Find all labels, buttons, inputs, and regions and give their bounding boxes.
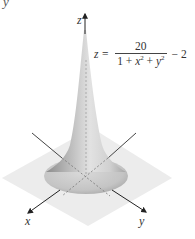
equation-numerator: 20 (133, 40, 149, 53)
den-y-exp: 2 (161, 54, 165, 62)
y-axis-label: y (139, 215, 144, 227)
z-axis-label: z (77, 14, 82, 26)
equation-denominator: 1 + x2 + y2 (115, 54, 166, 68)
equation-lhs: z = (94, 48, 109, 60)
x-axis-label: x (25, 215, 30, 227)
den-plus: + (144, 54, 156, 66)
equation-fraction: 20 1 + x2 + y2 (115, 40, 166, 68)
surface-plot-figure: y (0, 0, 195, 239)
surface-equation: z = 20 1 + x2 + y2 − 2 (94, 40, 187, 68)
den-const: 1 + (117, 54, 135, 66)
equation-tail: − 2 (172, 48, 187, 60)
surface-plot-graphic (0, 0, 195, 239)
